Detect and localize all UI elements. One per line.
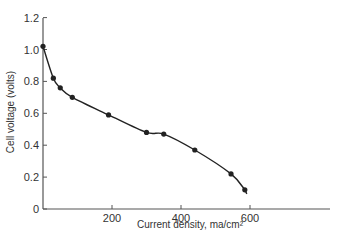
data-point: [192, 147, 197, 152]
data-point: [58, 85, 63, 90]
y-tick-label: 0.8: [24, 75, 39, 87]
y-tick-label: 0.6: [24, 107, 39, 119]
polarization-chart: 00.20.40.60.81.01.2 200400600 Current de…: [0, 0, 340, 245]
y-tick-label: 0.4: [24, 139, 39, 151]
data-point: [144, 130, 149, 135]
voltage-curve: [43, 46, 247, 194]
data-points: [40, 44, 247, 193]
x-tick-label: 600: [241, 212, 259, 224]
x-tick-label: 200: [103, 212, 121, 224]
data-point: [106, 112, 111, 117]
y-tick-label: 1.2: [24, 12, 39, 24]
data-point: [242, 187, 247, 192]
y-tick-label: 0: [33, 203, 39, 215]
data-point: [228, 171, 233, 176]
x-axis-title: Current density, ma/cm²: [137, 219, 244, 230]
data-point: [161, 131, 166, 136]
y-tick-label: 0.2: [24, 171, 39, 183]
y-tick-label: 1.0: [24, 44, 39, 56]
data-point: [70, 95, 75, 100]
data-point: [40, 44, 45, 49]
y-axis-title: Cell voltage (volts): [5, 71, 16, 153]
data-point: [51, 76, 56, 81]
axes: [43, 18, 330, 209]
